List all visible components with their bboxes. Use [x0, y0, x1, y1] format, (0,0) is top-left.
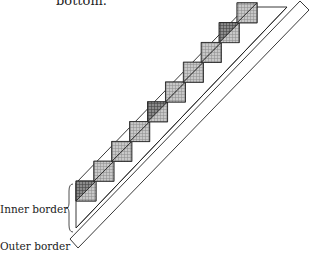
inner-border-label: Inner border	[0, 203, 68, 215]
outer-border-strip	[70, 1, 309, 248]
inner-border-strip	[76, 7, 287, 228]
quilt-strip-diagram	[0, 0, 309, 254]
pieced-blocks	[76, 3, 257, 201]
brace-icon	[64, 183, 76, 233]
outer-border-label: Outer border	[0, 240, 70, 252]
